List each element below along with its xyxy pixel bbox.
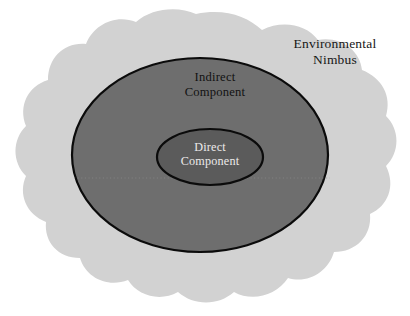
indirect-component-label: Indirect Component bbox=[152, 70, 278, 100]
direct-component-label: Direct Component bbox=[157, 140, 263, 169]
environmental-nimbus-label: Environmental Nimbus bbox=[268, 36, 402, 68]
diagram-canvas: Environmental Nimbus Indirect Component … bbox=[0, 0, 410, 316]
